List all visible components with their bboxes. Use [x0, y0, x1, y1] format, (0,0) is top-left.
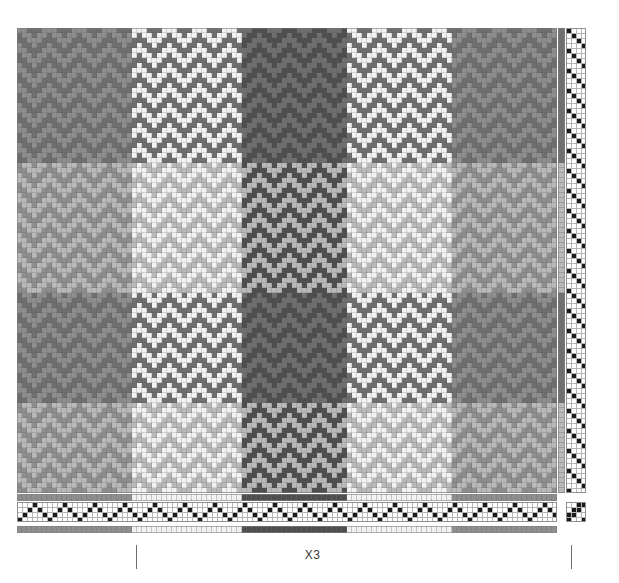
- threading-grid[interactable]: [17, 502, 557, 522]
- repeat-count-label: X3: [0, 548, 619, 562]
- drawdown-canvas[interactable]: [17, 28, 557, 493]
- tieup-canvas[interactable]: [566, 502, 586, 522]
- weft-color-bar-canvas: [558, 28, 565, 493]
- warp-color-bar-bottom-canvas: [17, 526, 557, 533]
- repeat-annotation: X3: [0, 545, 619, 583]
- repeat-count-text: X3: [305, 548, 321, 562]
- warp-color-bar-bottom: [17, 526, 557, 533]
- tieup-grid[interactable]: [566, 502, 586, 522]
- warp-color-bar-canvas: [17, 494, 557, 501]
- weft-color-bar: [558, 28, 565, 493]
- weaving-draft-page: X3: [0, 0, 619, 583]
- warp-color-bar-top: [17, 494, 557, 501]
- treadling-grid[interactable]: [566, 28, 586, 493]
- treadling-canvas[interactable]: [566, 28, 586, 493]
- drawdown[interactable]: [17, 28, 557, 493]
- threading-canvas[interactable]: [17, 502, 557, 522]
